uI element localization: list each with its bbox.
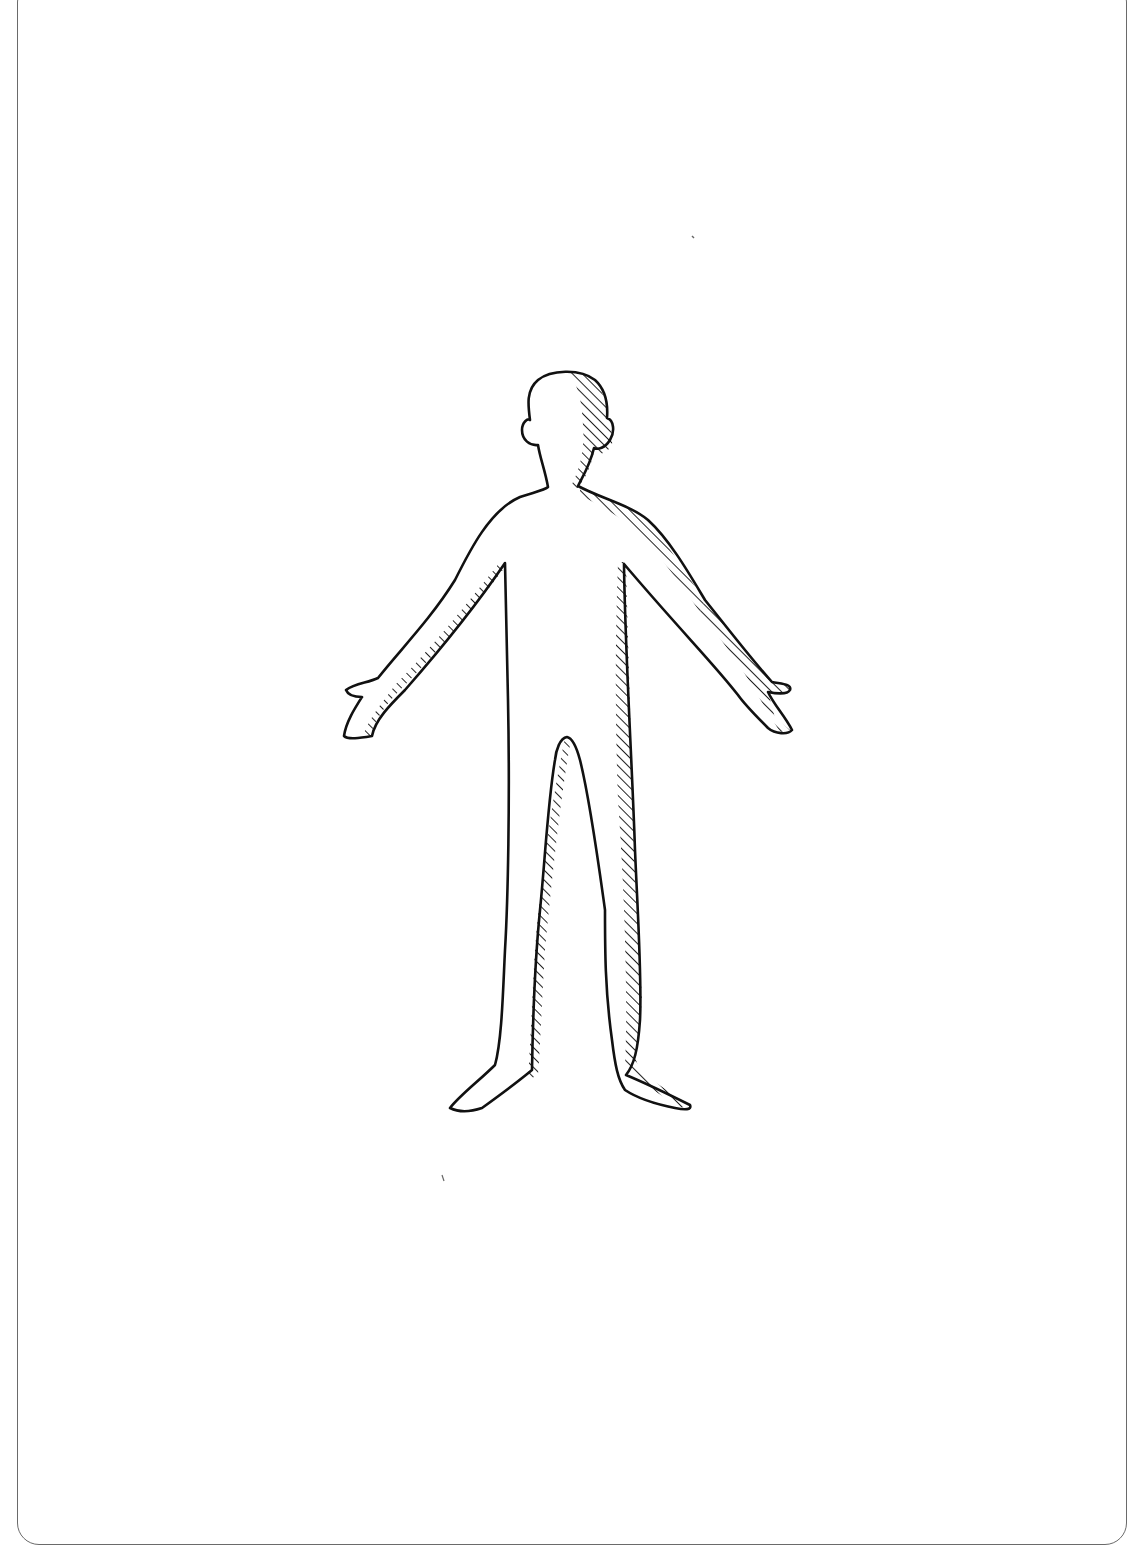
- stray-marks: [442, 236, 694, 1181]
- shading-hatch: [362, 372, 790, 1108]
- body-outline-path: [344, 372, 792, 1111]
- body-outline-figure: [0, 0, 1141, 1552]
